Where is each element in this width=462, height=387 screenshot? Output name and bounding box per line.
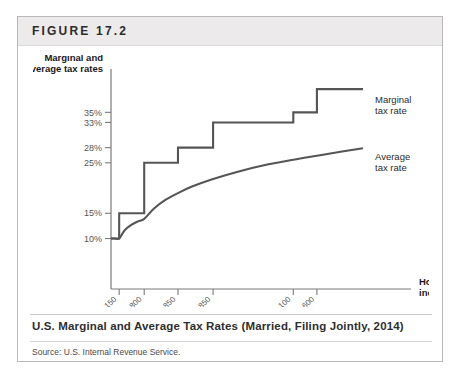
- figure-number-label: FIGURE 17.2: [32, 24, 128, 38]
- chart-plot-area: 35%33%28%25%15%10%$18,150$73,800$148,850…: [33, 55, 429, 307]
- caption-divider: [30, 314, 432, 315]
- average-tax-rate-annotation: tax rate: [375, 162, 407, 173]
- marginal-tax-rate-annotation: tax rate: [375, 105, 407, 116]
- chart-axes: [105, 69, 411, 295]
- tax-rate-chart: 35%33%28%25%15%10%$18,150$73,800$148,850…: [33, 55, 429, 307]
- x-axis-title: income: [419, 287, 429, 298]
- y-axis-tick-label: 10%: [84, 234, 102, 244]
- marginal-tax-rate-line: [111, 89, 363, 238]
- x-axis-title: Household: [419, 276, 429, 287]
- x-axis-tick-label: $148,850: [146, 294, 177, 307]
- x-axis-tick-label: $226,850: [182, 294, 213, 307]
- marginal-tax-rate-annotation: Marginal: [375, 94, 411, 105]
- source-divider: [30, 341, 432, 342]
- x-axis-tick-label: $405,100: [262, 294, 293, 307]
- chart-series: [111, 89, 363, 239]
- y-axis-tick-label: 25%: [84, 158, 102, 168]
- y-axis-title: average tax rates: [33, 63, 103, 74]
- y-axis-tick-label: 15%: [84, 208, 102, 218]
- x-axis-tick-label: $18,150: [91, 294, 119, 307]
- y-axis-tick-label: 28%: [84, 143, 102, 153]
- figure-source: Source: U.S. Internal Revenue Service.: [32, 347, 180, 357]
- chart-labels: 35%33%28%25%15%10%$18,150$73,800$148,850…: [33, 55, 429, 307]
- y-axis-tick-label: 35%: [84, 108, 102, 118]
- figure-caption: U.S. Marginal and Average Tax Rates (Mar…: [32, 320, 432, 332]
- y-axis-title: Marginal and: [44, 55, 103, 63]
- y-axis-tick-label: 33%: [84, 118, 102, 128]
- x-axis-tick-label: $73,800: [116, 294, 144, 307]
- figure-card: FIGURE 17.2 35%33%28%25%15%10%$18,150$73…: [17, 16, 443, 362]
- average-tax-rate-annotation: Average: [375, 151, 410, 162]
